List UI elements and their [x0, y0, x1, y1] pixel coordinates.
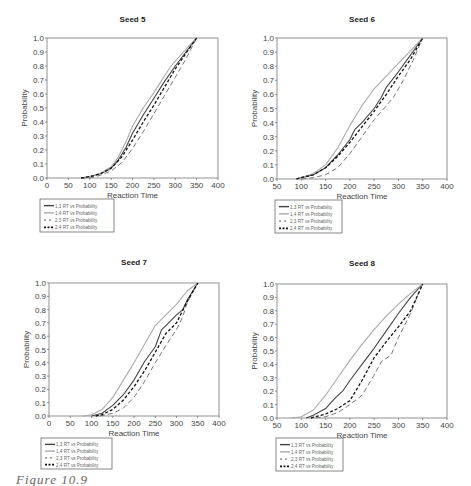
series-line	[296, 38, 422, 179]
series-line	[296, 38, 422, 179]
y-tick-label: 0.6	[263, 334, 275, 343]
plot-area	[277, 284, 447, 418]
legend-label: 1,3 RT vs Probability	[291, 443, 334, 448]
y-tick-label: 0.1	[263, 401, 275, 410]
chart-seed-7: Seed 70.00.10.20.30.40.50.60.70.80.91.00…	[22, 258, 226, 469]
y-tick-label: 0.6	[33, 90, 45, 99]
x-tick-label: 50	[64, 181, 73, 190]
figure-caption: Figure 10.9	[16, 474, 88, 486]
y-tick-label: 0.0	[33, 174, 45, 183]
y-tick-label: 0.3	[35, 372, 47, 381]
y-tick-label: 0.5	[35, 346, 47, 355]
x-tick-label: 200	[343, 182, 357, 191]
x-tick-label: 50	[273, 421, 282, 430]
y-tick-label: 0.5	[263, 105, 275, 114]
y-tick-label: 0.4	[33, 118, 45, 127]
legend-label: 1,4 RT vs Probability	[55, 211, 98, 216]
y-tick-label: 1.0	[35, 279, 47, 288]
y-axis-label: Probability	[250, 90, 259, 127]
legend-label: 1,3 RT vs Probability	[55, 204, 98, 209]
y-axis-label: Probability	[20, 89, 29, 126]
x-tick-label: 300	[170, 419, 184, 428]
y-tick-label: 1.0	[263, 280, 275, 289]
y-tick-label: 0.7	[35, 319, 47, 328]
chart-legend: 1,3 RT vs Probability1,4 RT vs Probabili…	[275, 200, 342, 233]
y-tick-label: 0.3	[263, 374, 275, 383]
x-tick-label: 150	[104, 181, 118, 190]
x-tick-label: 0	[45, 181, 50, 190]
x-tick-label: 400	[440, 182, 454, 191]
chart-legend: 1,3 RT vs Probability1,4 RT vs Probabili…	[41, 438, 112, 469]
legend-label: 2,4 RT vs Probability	[291, 464, 334, 469]
series-line	[81, 38, 196, 178]
legend-label: 1,3 RT vs Probability	[290, 205, 333, 210]
y-tick-label: 0.7	[33, 76, 45, 85]
x-tick-label: 150	[319, 421, 333, 430]
x-tick-label: 0	[47, 419, 52, 428]
x-tick-label: 150	[106, 419, 120, 428]
series-line	[292, 284, 423, 418]
y-axis-label: Probability	[250, 332, 259, 369]
figure-panel: Seed 50.00.10.20.30.40.50.60.70.80.91.00…	[0, 0, 471, 486]
legend-label: 2,4 RT vs Probability	[290, 226, 333, 231]
x-tick-label: 350	[191, 419, 205, 428]
series-line	[301, 38, 422, 179]
x-tick-label: 350	[416, 182, 430, 191]
y-axis-label: Probability	[22, 331, 31, 368]
legend-label: 1,4 RT vs Probability	[290, 212, 333, 217]
chart-seed-5: Seed 50.00.10.20.30.40.50.60.70.80.91.00…	[20, 15, 225, 232]
y-tick-label: 0.3	[263, 133, 275, 142]
series-line	[81, 38, 196, 178]
y-tick-label: 0.9	[33, 48, 45, 57]
chart-title: Seed 8	[349, 259, 375, 268]
series-line	[81, 38, 196, 178]
legend-label: 2,3 RT vs Probability	[291, 457, 334, 462]
chart-legend: 1,3 RT vs Probability1,4 RT vs Probabili…	[40, 199, 114, 232]
x-tick-label: 250	[147, 181, 161, 190]
x-tick-label: 300	[392, 182, 406, 191]
chart-title: Seed 7	[121, 258, 147, 267]
y-tick-label: 1.0	[263, 34, 275, 43]
legend-label: 1,3 RT vs Probability	[56, 442, 99, 447]
chart-title: Seed 6	[349, 15, 375, 24]
x-tick-label: 150	[319, 182, 333, 191]
y-tick-label: 0.7	[263, 76, 275, 85]
legend-label: 2,3 RT vs Probability	[290, 219, 333, 224]
y-tick-label: 0.4	[263, 360, 275, 369]
x-tick-label: 100	[295, 421, 309, 430]
series-line	[81, 38, 196, 178]
legend-label: 2,3 RT vs Probability	[56, 456, 99, 461]
plot-area	[47, 38, 218, 178]
chart-title: Seed 5	[120, 15, 146, 24]
x-tick-label: 200	[127, 419, 141, 428]
y-tick-label: 0.6	[35, 332, 47, 341]
chart-seed-6: Seed 60.00.10.20.30.40.50.60.70.80.91.05…	[250, 15, 454, 233]
y-tick-label: 0.8	[35, 306, 47, 315]
x-axis-label: Reaction Time	[336, 192, 388, 201]
y-tick-label: 0.1	[33, 160, 45, 169]
series-line	[83, 283, 198, 416]
legend-label: 1,4 RT vs Probability	[291, 450, 334, 455]
x-tick-label: 200	[343, 421, 357, 430]
y-tick-label: 0.3	[33, 132, 45, 141]
x-axis-label: Reaction Time	[107, 191, 159, 200]
y-tick-label: 0.0	[35, 412, 47, 421]
y-tick-label: 0.9	[263, 48, 275, 57]
y-tick-label: 0.2	[35, 385, 47, 394]
y-tick-label: 0.8	[263, 62, 275, 71]
y-tick-label: 0.2	[33, 146, 45, 155]
x-tick-label: 200	[126, 181, 140, 190]
plot-area	[49, 283, 219, 416]
x-tick-label: 250	[149, 419, 163, 428]
y-tick-label: 0.7	[263, 320, 275, 329]
x-tick-label: 350	[190, 181, 204, 190]
plot-area	[277, 38, 447, 179]
y-tick-label: 0.2	[263, 147, 275, 156]
y-tick-label: 0.2	[263, 387, 275, 396]
y-tick-label: 0.6	[263, 90, 275, 99]
y-tick-label: 0.9	[35, 292, 47, 301]
y-tick-label: 0.5	[263, 347, 275, 356]
series-line	[100, 283, 198, 416]
legend-label: 1,4 RT vs Probability	[56, 449, 99, 454]
series-line	[92, 283, 198, 416]
